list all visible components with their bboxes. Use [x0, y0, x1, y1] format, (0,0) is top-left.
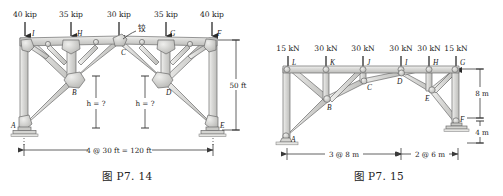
- load-label-I: 30 kN: [389, 44, 413, 53]
- height-unknown-right-label-top: h = ?: [135, 99, 154, 108]
- hinge-annotation-label: 铰: [138, 23, 146, 33]
- node-label-E: E: [424, 94, 430, 103]
- node-label-F: F: [459, 115, 465, 124]
- load-label-I: 40 kip: [13, 10, 37, 19]
- node-label-G: G: [170, 29, 176, 38]
- figure-p7-14: 40 kip 35 kip 30 kip 35 kip 40 kip: [0, 0, 255, 196]
- web-members: [25, 39, 212, 124]
- support-F: [444, 123, 469, 131]
- node-label-D: D: [165, 88, 172, 97]
- node-label-B: B: [72, 88, 77, 97]
- load-label-F: 40 kip: [200, 10, 224, 19]
- node-label-E: E: [219, 121, 225, 130]
- upper-height-label: 8 m: [475, 89, 489, 98]
- web-members: [285, 66, 458, 137]
- span-dimension-label: 4 @ 30 ft = 120 ft: [86, 146, 152, 155]
- joint-D: [399, 70, 405, 76]
- load-label-G: 35 kip: [154, 10, 178, 19]
- columns: [20, 38, 217, 128]
- figure-p7-15: 15 kN 30 kN 30 kN 30 kN 30 kN 15 kN: [255, 0, 503, 196]
- node-label-A: A: [290, 135, 296, 144]
- node-label-I: I: [31, 29, 35, 38]
- joint-E: [429, 87, 435, 93]
- figure-caption-p7-14: 图 P7. 14: [0, 168, 255, 183]
- node-label-C: C: [121, 48, 126, 57]
- node-label-H: H: [76, 29, 83, 38]
- node-label-C: C: [367, 83, 372, 92]
- load-label-K: 30 kN: [314, 44, 338, 53]
- node-label-F: F: [216, 29, 222, 38]
- node-label-L: L: [291, 58, 296, 67]
- truss-diagram-p7-14: 40 kip 35 kip 30 kip 35 kip 40 kip: [0, 0, 255, 196]
- top-chord: [283, 66, 459, 73]
- lower-height-label: 4 m: [475, 128, 489, 137]
- load-label-J: 30 kN: [351, 44, 375, 53]
- load-label-L: 15 kN: [276, 44, 300, 53]
- height-unknown-left-label-top: h = ?: [86, 99, 105, 108]
- joint-B: [324, 96, 331, 103]
- column-AL: [283, 68, 290, 138]
- node-label-B: B: [327, 103, 332, 112]
- left-span-label: 3 @ 8 m: [329, 150, 359, 159]
- node-label-I: I: [404, 58, 408, 67]
- arch-AB: [285, 97, 329, 137]
- load-label-G: 15 kN: [444, 44, 468, 53]
- truss-diagram-p7-15: 15 kN 30 kN 30 kN 30 kN 30 kN 15 kN: [255, 0, 503, 196]
- figure-caption-p7-15: 图 P7. 15: [255, 168, 503, 183]
- load-group: 40 kip 35 kip 30 kip 35 kip 40 kip: [13, 10, 224, 38]
- column-FG: [452, 68, 459, 123]
- load-label-H: 30 kN: [417, 44, 441, 53]
- load-label-H: 35 kip: [59, 10, 83, 19]
- node-label-A: A: [10, 121, 16, 130]
- load-label-C: 30 kip: [107, 10, 131, 19]
- column-height-label: 50 ft: [230, 81, 247, 90]
- right-span-label: 2 @ 6 m: [415, 150, 445, 159]
- node-label-H: H: [432, 58, 439, 67]
- node-label-G: G: [460, 58, 466, 67]
- node-label-D: D: [396, 77, 403, 86]
